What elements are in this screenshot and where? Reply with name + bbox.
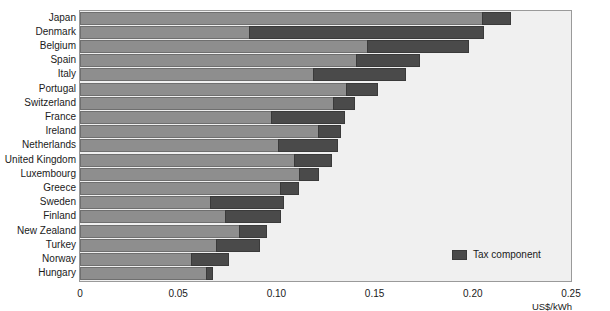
bar-segment-tax [299,168,319,181]
x-axis-tick: 0.05 [168,288,187,299]
bar-segment-tax [278,139,338,152]
bar-segment-base [80,54,356,67]
bar-segment-base [80,168,299,181]
bar-row [80,253,229,266]
y-axis-label: Belgium [0,39,76,52]
y-axis-label: Portugal [0,82,76,95]
bar-row [80,182,299,195]
y-axis-label: Switzerland [0,96,76,109]
bar-segment-base [80,83,346,96]
y-axis-label: Sweden [0,195,76,208]
bar-segment-base [80,26,249,39]
bar-row [80,97,355,110]
bar-row [80,68,406,81]
bar-row [80,40,469,53]
legend-label-tax-component: Tax component [473,249,541,261]
bar-row [80,111,345,124]
y-axis-label: Turkey [0,238,76,251]
x-axis-tick: 0.15 [365,288,384,299]
legend-swatch-tax-component [452,250,467,260]
bar-segment-tax [210,196,285,209]
bar-segment-tax [206,267,213,280]
y-axis-label: Luxembourg [0,167,76,180]
bar-segment-base [80,253,191,266]
y-axis-label: Hungary [0,266,76,279]
x-axis-tick: 0.10 [267,288,286,299]
y-axis-label: Finland [0,209,76,222]
bar-segment-base [80,225,239,238]
bar-segment-tax [333,97,355,110]
bar-segment-base [80,111,271,124]
y-axis-label: Norway [0,252,76,265]
y-axis-label: France [0,110,76,123]
plot-area: Tax component [79,10,572,282]
y-axis-label: New Zealand [0,224,76,237]
bar-segment-tax [216,239,260,252]
bar-segment-base [80,139,278,152]
bar-segment-tax [356,54,420,67]
bar-segment-base [80,154,294,167]
x-axis-tick: 0 [77,288,83,299]
y-axis-label: Ireland [0,124,76,137]
bar-segment-tax [280,182,299,195]
bar-segment-base [80,125,318,138]
bar-segment-tax [294,154,332,167]
y-axis-label: Denmark [0,25,76,38]
x-axis: 00.050.100.150.200.25 US$/kWh [79,282,572,310]
bar-row [80,239,260,252]
bar-segment-base [80,182,280,195]
bar-row [80,196,284,209]
bar-row [80,125,341,138]
bar-segment-tax [239,225,267,238]
bar-segment-base [80,68,313,81]
bar-row [80,26,484,39]
bar-row [80,54,420,67]
bar-segment-tax [346,83,378,96]
bar-row [80,225,267,238]
electricity-price-chart: JapanDenmarkBelgiumSpainItalyPortugalSwi… [0,0,610,311]
bar-segment-base [80,210,225,223]
bar-segment-tax [482,12,511,25]
chart-legend: Tax component [452,249,541,261]
x-axis-tick: 0.20 [463,288,482,299]
bar-row [80,210,281,223]
bar-segment-base [80,12,482,25]
bar-row [80,83,378,96]
bar-segment-base [80,40,367,53]
bar-segment-tax [367,40,469,53]
bar-row [80,267,213,280]
bar-row [80,154,332,167]
y-axis-label: Italy [0,67,76,80]
y-axis-label: Spain [0,53,76,66]
x-axis-unit-label: US$/kWh [532,301,572,311]
y-axis-label: Japan [0,11,76,24]
y-axis-label: Greece [0,181,76,194]
bar-row [80,12,511,25]
bar-segment-tax [318,125,341,138]
bar-segment-tax [225,210,281,223]
bar-segment-tax [313,68,407,81]
y-axis-label: Netherlands [0,138,76,151]
bar-row [80,168,319,181]
bar-segment-base [80,267,206,280]
y-axis-label: United Kingdom [0,153,76,166]
bar-segment-tax [191,253,230,266]
bar-segment-tax [271,111,346,124]
bar-row [80,139,338,152]
bar-segment-base [80,97,333,110]
bar-segment-base [80,196,210,209]
bar-segment-tax [249,26,483,39]
x-axis-tick: 0.25 [561,288,580,299]
bar-segment-base [80,239,216,252]
y-axis-category-labels: JapanDenmarkBelgiumSpainItalyPortugalSwi… [0,10,76,282]
